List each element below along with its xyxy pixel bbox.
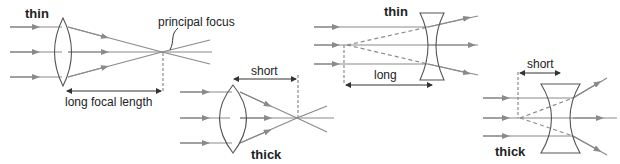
convex-thin-panel: [10, 27, 212, 92]
convex-thick-label: thick: [251, 148, 281, 161]
concave-thick-label: thick: [495, 145, 525, 158]
principal-focus-label: principal focus: [158, 16, 235, 28]
concave-thin-label: thin: [384, 5, 408, 18]
long-focal-length-label: long focal length: [65, 96, 152, 108]
concave-thin-distance-label: long: [374, 69, 397, 81]
convex-thick-distance-label: short: [251, 65, 278, 77]
convex-thin-label: thin: [25, 7, 49, 20]
lens-diagram: thin principal focus long focal length s…: [0, 0, 620, 164]
concave-thick-distance-label: short: [527, 58, 554, 70]
concave-thin-lens: [420, 13, 444, 80]
convex-thick-panel: [180, 75, 334, 143]
